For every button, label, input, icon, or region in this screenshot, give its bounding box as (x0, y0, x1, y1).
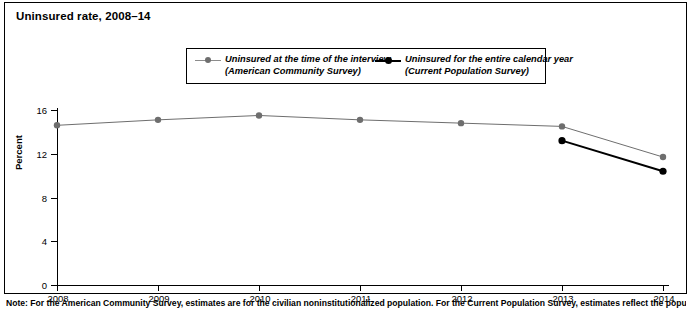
legend-label-acs-line1: Uninsured at the time of the interview (225, 54, 391, 64)
chart-title: Uninsured rate, 2008–14 (16, 10, 151, 22)
y-tick-8: 8 (51, 198, 57, 199)
x-tick-2011: 2011 (360, 285, 361, 291)
x-tick-2014: 2014 (663, 285, 664, 291)
y-tick-label-12: 12 (36, 149, 47, 160)
uninsured-rate-figure: Uninsured rate, 2008–14 Uninsured at the… (0, 0, 691, 313)
legend-label-cps-line2: (Current Population Survey) (405, 66, 529, 76)
x-tick-2009: 2009 (158, 285, 159, 291)
y-tick-label-0: 0 (42, 280, 47, 291)
x-tick-2013: 2013 (562, 285, 563, 291)
x-tick-2012: 2012 (461, 285, 462, 291)
y-tick-label-4: 4 (42, 236, 47, 247)
x-tick-2008: 2008 (57, 285, 58, 291)
y-axis-title: Percent (13, 135, 24, 170)
legend-marker-cps-icon (375, 54, 401, 67)
chart-legend: Uninsured at the time of the interview (… (186, 48, 546, 84)
figure-note: Note: For the American Community Survey,… (6, 298, 686, 309)
legend-item-acs: Uninsured at the time of the interview (… (195, 54, 391, 77)
y-tick-12: 12 (51, 154, 57, 155)
legend-label-cps-line1: Uninsured for the entire calendar year (405, 54, 573, 64)
legend-label-cps: Uninsured for the entire calendar year (… (405, 54, 573, 77)
y-tick-label-8: 8 (42, 193, 47, 204)
legend-label-acs: Uninsured at the time of the interview (… (225, 54, 391, 77)
y-tick-16: 16 (51, 110, 57, 111)
x-axis-line (57, 285, 669, 286)
y-tick-4: 4 (51, 241, 57, 242)
legend-label-acs-line2: (American Community Survey) (225, 66, 361, 76)
legend-item-cps: Uninsured for the entire calendar year (… (375, 54, 573, 77)
x-tick-2010: 2010 (259, 285, 260, 291)
legend-marker-acs-icon (195, 54, 221, 67)
y-axis-line (57, 108, 58, 287)
y-tick-label-16: 16 (36, 105, 47, 116)
figure-frame (4, 2, 687, 294)
